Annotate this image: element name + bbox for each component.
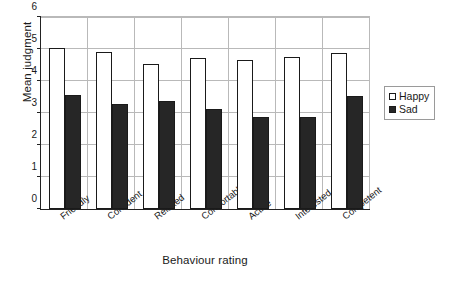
bar-happy	[49, 48, 65, 209]
plot-area: 0123456	[40, 17, 370, 210]
x-tick-cell: Interested	[276, 211, 323, 257]
bar-sad	[253, 117, 269, 209]
legend-label: Sad	[399, 103, 418, 116]
legend: HappySad	[384, 86, 435, 120]
bar-happy	[96, 52, 112, 209]
y-axis-tick-label: 3	[7, 97, 37, 108]
bar-sad	[65, 95, 81, 209]
bar-happy	[143, 64, 159, 209]
x-tick-cell: Relaxed	[134, 211, 181, 257]
x-tick-cell: Active	[229, 211, 276, 257]
bar-group	[135, 17, 182, 209]
bar-sad	[300, 117, 316, 209]
y-axis-tick-label: 6	[7, 1, 37, 12]
y-axis-tick-label: 2	[7, 129, 37, 140]
bar-sad	[159, 101, 175, 209]
x-axis-title: Behaviour rating	[40, 254, 370, 266]
bar-happy	[331, 53, 347, 209]
y-axis-tick-label: 5	[7, 33, 37, 44]
bar-group	[41, 17, 88, 209]
bar-groups	[41, 17, 370, 209]
bar-sad	[206, 109, 222, 209]
y-axis-tick-label: 1	[7, 161, 37, 172]
bar-sad	[347, 96, 363, 209]
x-tick-cell: Friendly	[40, 211, 87, 257]
legend-swatch-happy	[389, 93, 396, 100]
legend-label: Happy	[399, 90, 429, 103]
x-axis-tick-labels: FriendlyConfidentRelaxedComfortableActiv…	[40, 211, 370, 257]
bar-group	[88, 17, 135, 209]
x-tick-cell: Competent	[323, 211, 370, 257]
bar-group	[276, 17, 323, 209]
bar-chart-figure: Mean judgment 0123456 FriendlyConfidentR…	[0, 0, 452, 281]
bar-group	[229, 17, 276, 209]
y-axis-tick-label: 4	[7, 65, 37, 76]
legend-swatch-sad	[389, 106, 396, 113]
y-axis-tick-label: 0	[7, 193, 37, 204]
bar-sad	[112, 104, 128, 209]
bar-happy	[190, 58, 206, 209]
bar-group	[323, 17, 370, 209]
bar-happy	[237, 60, 253, 209]
x-tick-cell: Comfortable	[181, 211, 228, 257]
legend-item: Happy	[389, 90, 429, 103]
legend-item: Sad	[389, 103, 429, 116]
bar-happy	[284, 57, 300, 209]
bar-group	[182, 17, 229, 209]
x-tick-cell: Confident	[87, 211, 134, 257]
